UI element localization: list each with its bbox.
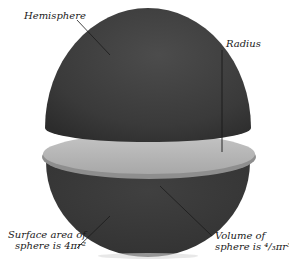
volume-line-1: Volume of: [215, 230, 289, 241]
top-hemisphere: [45, 8, 251, 142]
surface-area-line-2: sphere is 4πr²: [8, 240, 86, 251]
volume-line-2: sphere is ⁴/₃πr³: [215, 241, 289, 252]
radius-label: Radius: [226, 38, 261, 49]
surface-area-label: Surface area of sphere is 4πr²: [8, 229, 86, 251]
volume-label: Volume of sphere is ⁴/₃πr³: [215, 230, 289, 252]
hemisphere-label: Hemisphere: [24, 10, 86, 21]
surface-area-line-1: Surface area of: [8, 229, 86, 240]
sphere-diagram: Hemisphere Radius Surface area of sphere…: [0, 0, 289, 265]
